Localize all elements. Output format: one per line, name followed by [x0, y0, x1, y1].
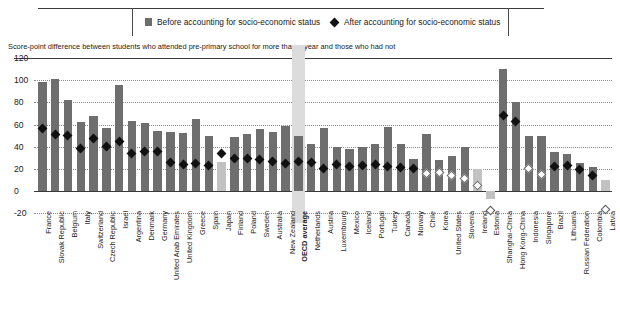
chart-column: [369, 55, 382, 207]
x-axis-label-new-zealand: New Zealand: [289, 211, 297, 254]
chart-column: [62, 55, 75, 207]
x-axis-label-japan: Japan: [225, 211, 233, 231]
x-axis-label-australia: Australia: [276, 211, 284, 239]
chart-column: [433, 55, 446, 207]
chart-column: [266, 55, 279, 207]
bar-before: [38, 82, 46, 191]
x-axis-label-chile: Chile: [429, 211, 437, 228]
bar-before: [217, 162, 225, 191]
chart-column: [586, 55, 599, 207]
x-axis-label-argentina: Argentina: [135, 211, 143, 242]
chart-column: [100, 55, 113, 207]
bar-before: [153, 131, 161, 191]
legend-right-divider: [508, 8, 509, 36]
chart-column: [599, 55, 612, 207]
x-axis-label-hong-kong-china: Hong Kong-China: [519, 211, 527, 269]
x-axis-label-korea: Korea: [442, 211, 450, 230]
x-axis-label-brazil: Brazil: [557, 211, 565, 229]
chart-column: [471, 55, 484, 207]
x-axis-category-labels: FranceSlovak RepublicBelgiumItalySwitzer…: [0, 209, 620, 329]
chart-column: [215, 55, 228, 207]
chart-column: [343, 55, 356, 207]
x-axis-label-italy: Italy: [84, 211, 92, 224]
x-axis-label-united-kingdom: United Kingdom: [186, 211, 194, 263]
chart-column: [36, 55, 49, 207]
chart-column: [305, 55, 318, 207]
diamond-marker-icon: [330, 17, 340, 27]
bar-before: [550, 152, 558, 191]
x-axis-label-spain: Spain: [212, 211, 220, 230]
chart-column: [113, 55, 126, 207]
chart-subtitle: Score-point difference between students …: [8, 42, 395, 51]
x-axis-label-ireland: Ireland: [481, 211, 489, 233]
chart-column: [407, 55, 420, 207]
chart-column: [510, 55, 523, 207]
chart-column: [87, 55, 100, 207]
chart-column: [574, 55, 587, 207]
oecd-average-highlight-band: [292, 45, 305, 223]
x-axis-label-iceland: Iceland: [365, 211, 373, 235]
legend-left-divider: [132, 8, 133, 36]
bar-before: [512, 102, 520, 191]
x-axis-label-united-states: United States: [455, 211, 463, 255]
x-axis-label-russian-federation: Russian Federation: [583, 211, 591, 274]
chart-column: [382, 55, 395, 207]
x-axis-label-canada: Canada: [404, 211, 412, 237]
marker-after: [217, 148, 227, 158]
chart-plot-area: -20020406080100120: [0, 55, 620, 207]
chart-column: [446, 55, 459, 207]
chart-column: [126, 55, 139, 207]
chart-column: [279, 55, 292, 207]
chart-column: [151, 55, 164, 207]
chart-column: [202, 55, 215, 207]
x-axis-label-israel: Israel: [122, 211, 130, 229]
x-axis-label-slovenia: Slovenia: [468, 211, 476, 239]
x-axis-label-colombia: Colombia: [596, 211, 604, 242]
bar-before: [499, 69, 507, 191]
chart-column: [49, 55, 62, 207]
x-axis-label-slovak-republic: Slovak Republic: [58, 211, 66, 263]
chart-column: [228, 55, 241, 207]
chart-column: [318, 55, 331, 207]
legend-item-before: Before accounting for socio-economic sta…: [145, 17, 320, 27]
x-axis-label-portugal: Portugal: [378, 211, 386, 238]
x-axis-label-belgium: Belgium: [71, 211, 79, 237]
bar-before: [461, 147, 469, 191]
x-axis-label-switzerland: Switzerland: [97, 211, 105, 249]
chart-column: [458, 55, 471, 207]
chart-column: [74, 55, 87, 207]
chart-column: [394, 55, 407, 207]
x-axis-label-shanghai-china: Shanghai-China: [506, 211, 514, 263]
x-axis-label-france: France: [45, 211, 53, 234]
chart-column: [484, 55, 497, 207]
x-axis-label-netherlands: Netherlands: [314, 211, 322, 250]
legend-top-rule: [38, 8, 544, 9]
chart-column: [292, 55, 305, 207]
bar-before: [384, 127, 392, 191]
x-axis-label-poland: Poland: [250, 211, 258, 234]
x-axis-label-finland: Finland: [237, 211, 245, 235]
chart-legend: Before accounting for socio-economic sta…: [0, 8, 620, 36]
chart-column: [497, 55, 510, 207]
x-axis-label-turkey: Turkey: [391, 211, 399, 233]
chart-column: [561, 55, 574, 207]
x-axis-label-sweden: Sweden: [263, 211, 271, 237]
x-axis-label-united-arab-emirates: United Arab Emirates: [173, 211, 181, 280]
x-axis-label-lithuania: Lithuania: [570, 211, 578, 241]
chart-column: [138, 55, 151, 207]
bar-before: [320, 128, 328, 191]
legend-item-after: After accounting for socio-economic stat…: [330, 17, 500, 27]
chart-column: [356, 55, 369, 207]
x-axis-label-germany: Germany: [161, 211, 169, 241]
chart-column: [522, 55, 535, 207]
chart-column: [330, 55, 343, 207]
chart-column: [535, 55, 548, 207]
chart-column: [241, 55, 254, 207]
bar-before: [422, 134, 430, 191]
x-axis-label-norway: Norway: [417, 211, 425, 236]
bar-before: [230, 137, 238, 191]
chart-column: [164, 55, 177, 207]
chart-column: [190, 55, 203, 207]
square-swatch-icon: [145, 18, 152, 26]
x-axis-label-oecd-average: OECD average: [301, 211, 309, 262]
